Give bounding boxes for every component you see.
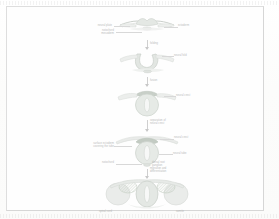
- label-notochord: notochord: [84, 161, 114, 164]
- stage-neural-fold-closing: neural crest: [92, 88, 202, 118]
- label-neural-plate: neural plate: [90, 24, 112, 27]
- connector-2-annotation: fusion: [150, 79, 174, 82]
- connector-3-annotation: separation of neural crest: [150, 119, 178, 125]
- leader-s1-l2: [164, 27, 178, 28]
- leader-s5-l2: [154, 210, 176, 211]
- connector-4-annotation: migration and differentiation: [150, 167, 176, 173]
- label-neural-crest-s4: neural crest: [174, 136, 202, 139]
- leader-s4-l1: [160, 139, 174, 140]
- label-somite: somite: [176, 210, 202, 213]
- leader-s5-l1: [112, 210, 134, 211]
- leader-s1-l3: [116, 32, 142, 33]
- leader-s3-l1: [164, 96, 176, 97]
- scanned-page: neural plate ectoderm notochord mesoderm…: [0, 0, 279, 219]
- leader-s4-l2: [114, 146, 132, 147]
- connector-1-annotation: folding: [150, 42, 174, 45]
- stage-neural-plate: neural plate ectoderm notochord mesoderm: [92, 12, 202, 38]
- label-surface-ectoderm: surface ectoderm covering the tube: [78, 142, 114, 148]
- stage-neural-tube-closed: neural crest surface ectoderm covering t…: [92, 133, 202, 167]
- leader-s4-l3: [159, 154, 173, 155]
- stage-neural-groove: neural fold: [92, 51, 202, 75]
- leader-s4-l4: [116, 164, 142, 165]
- label-neural-crest-s3: neural crest: [176, 94, 202, 97]
- label-neural-tube: neural tube: [173, 152, 201, 155]
- connector-folding: [147, 40, 148, 49]
- stage-somite-differentiation: spinal cord somite: [92, 178, 202, 218]
- neural-tube-development-figure: neural plate ectoderm notochord mesoderm…: [92, 12, 202, 208]
- leader-s1-l1: [114, 26, 130, 27]
- label-spinal-cord: spinal cord: [82, 210, 112, 213]
- label-notochord-mesoderm: notochord mesoderm: [84, 29, 114, 35]
- connector-fusion: [147, 77, 148, 86]
- connector-migration: [147, 169, 148, 178]
- label-ectoderm: ectoderm: [178, 24, 202, 27]
- label-neural-fold: neural fold: [174, 54, 200, 57]
- leader-s2-l1: [162, 56, 174, 57]
- scan-noise-top: [0, 1, 279, 5]
- stage-3-illustration: [92, 88, 202, 118]
- connector-crest-separation: [147, 120, 148, 131]
